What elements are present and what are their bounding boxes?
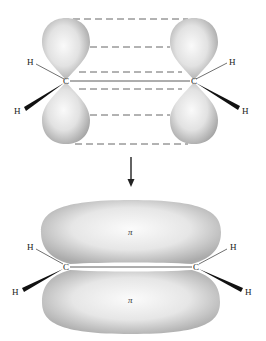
hydrogen-label: H — [27, 57, 34, 67]
hydrogen-label: H — [14, 106, 21, 116]
carbon-label: C — [193, 262, 199, 272]
hydrogen-label: H — [27, 242, 34, 252]
pi-orbital-panel: π π C C H H H H — [12, 200, 252, 334]
hydrogen-label: H — [242, 106, 249, 116]
hydrogen-label: H — [229, 57, 236, 67]
hydrogen-label: H — [245, 287, 252, 297]
carbon-label: C — [63, 262, 69, 272]
left-lower-lobe — [42, 82, 90, 144]
right-upper-lobe — [170, 18, 218, 80]
pi-bond-diagram: C C H H H H π π C C H H H H — [0, 0, 266, 341]
down-arrow-icon — [128, 157, 135, 187]
hydrogen-label: H — [12, 287, 19, 297]
pi-label: π — [128, 295, 133, 305]
pi-label: π — [128, 227, 133, 237]
p-orbital-panel: C C H H H H — [14, 18, 249, 144]
carbon-label: C — [63, 76, 69, 86]
carbon-label: C — [191, 76, 197, 86]
hydrogen-label: H — [230, 242, 237, 252]
